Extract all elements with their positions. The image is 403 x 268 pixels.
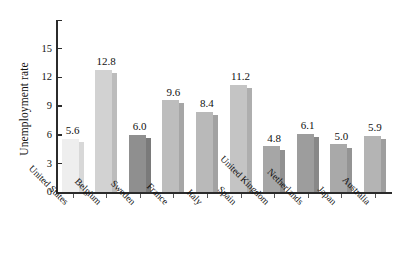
x-axis-tick: [274, 194, 275, 198]
bar-side-shade: [213, 115, 218, 192]
y-axis-top-cap-tick: [56, 20, 62, 21]
y-axis-tick-label: 9: [24, 100, 52, 111]
bar-side-shade: [381, 139, 386, 192]
x-axis-tick: [241, 194, 242, 198]
plot-area: 03691215 5.612.86.09.68.411.24.86.15.05.…: [0, 0, 403, 268]
bar-face: [162, 100, 179, 192]
y-axis-tick-label: 6: [24, 129, 52, 140]
x-axis-tick: [207, 194, 208, 198]
bar: [364, 136, 386, 193]
x-axis-tick: [73, 194, 74, 198]
x-axis-tick: [173, 194, 174, 198]
bar-value-label: 12.8: [86, 55, 126, 67]
y-axis-tick: [56, 77, 62, 78]
bar-value-label: 4.8: [254, 132, 294, 144]
bar-value-label: 8.4: [187, 97, 227, 109]
bar-value-label: 11.2: [221, 70, 261, 82]
bar: [95, 70, 117, 193]
y-axis-tick: [56, 105, 62, 106]
bar: [297, 134, 319, 193]
x-axis-tick: [341, 194, 342, 198]
bar-face: [364, 136, 381, 193]
bar-value-label: 6.0: [120, 120, 160, 132]
bar-side-shade: [112, 73, 117, 193]
y-axis-tick: [56, 48, 62, 49]
bar-face: [129, 135, 146, 193]
bar-value-label: 5.6: [53, 124, 93, 136]
bar-chart: Unemployment rate 03691215 5.612.86.09.6…: [0, 0, 403, 268]
y-axis-line: [56, 20, 58, 194]
bar: [196, 112, 218, 193]
bar-side-shade: [179, 103, 184, 192]
bar: [162, 100, 184, 192]
bar-face: [95, 70, 112, 193]
y-axis-tick-label: 12: [24, 71, 52, 82]
bar-value-label: 5.9: [355, 121, 395, 133]
bar-side-shade: [314, 137, 319, 192]
x-axis-tick: [308, 194, 309, 198]
x-axis-tick: [375, 194, 376, 198]
x-axis-tick: [140, 194, 141, 198]
y-axis-tick-label: 15: [24, 43, 52, 54]
bar-value-label: 9.6: [153, 86, 193, 98]
bar-face: [196, 112, 213, 193]
bar-face: [297, 134, 314, 193]
x-axis-tick: [106, 194, 107, 198]
